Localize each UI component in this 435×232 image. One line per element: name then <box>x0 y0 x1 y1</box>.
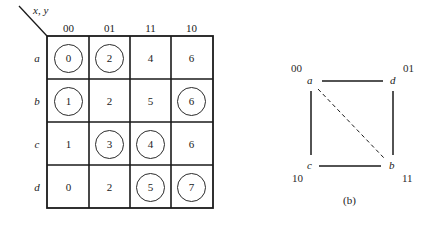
cell-value: 5 <box>136 87 165 116</box>
kmap-col-label: 00 <box>48 23 89 34</box>
kmap-cell: 2 <box>89 37 130 80</box>
kmap-cell: 2 <box>89 166 130 209</box>
kmap-row-label: c <box>31 139 43 150</box>
cell-value: 0 <box>54 173 83 202</box>
cell-value: 1 <box>54 87 83 116</box>
cell-value: 4 <box>136 44 165 73</box>
cell-value: 6 <box>177 87 206 116</box>
cell-value: 1 <box>54 130 83 159</box>
cell-value: 5 <box>136 173 165 202</box>
node-label-b: b <box>389 160 395 171</box>
kmap-col-label: 01 <box>89 23 130 34</box>
kmap-row-label: d <box>31 182 43 193</box>
node-label-a: a <box>307 75 313 86</box>
kmap-cell: 7 <box>171 166 212 209</box>
node-code-a: 00 <box>291 63 302 74</box>
kmap-cell: 5 <box>130 166 171 209</box>
node-code-d: 01 <box>403 63 414 74</box>
edge-a-b-dashed <box>318 89 384 158</box>
kmap-row-label: a <box>31 53 43 64</box>
kmap-cell: 4 <box>130 37 171 80</box>
cell-value: 2 <box>95 173 124 202</box>
kmap-col-label: 10 <box>171 23 212 34</box>
node-code-c: 10 <box>292 173 303 184</box>
cell-value: 7 <box>177 173 206 202</box>
cell-value: 6 <box>177 44 206 73</box>
kmap-cell: 2 <box>89 80 130 123</box>
kmap-cell: 6 <box>171 123 212 166</box>
figure-caption: (b) <box>343 195 356 206</box>
kmap-col-label: 11 <box>130 23 171 34</box>
kmap-cell: 4 <box>130 123 171 166</box>
cell-value: 2 <box>95 87 124 116</box>
kmap-cell: 3 <box>89 123 130 166</box>
node-code-b: 11 <box>402 173 413 184</box>
kmap-corner-label: x, y <box>33 5 48 16</box>
kmap-row-label: b <box>31 96 43 107</box>
kmap-cell: 0 <box>48 37 89 80</box>
kmap-cell: 1 <box>48 80 89 123</box>
cell-value: 3 <box>95 130 124 159</box>
cell-value: 2 <box>95 44 124 73</box>
cell-value: 6 <box>177 130 206 159</box>
node-label-c: c <box>307 160 312 171</box>
kmap-cell: 0 <box>48 166 89 209</box>
cell-value: 0 <box>54 44 83 73</box>
kmap-cell: 6 <box>171 80 212 123</box>
cell-value: 4 <box>136 130 165 159</box>
kmap-cell: 6 <box>171 37 212 80</box>
node-label-d: d <box>390 75 396 86</box>
kmap-cell: 1 <box>48 123 89 166</box>
kmap-cell: 5 <box>130 80 171 123</box>
